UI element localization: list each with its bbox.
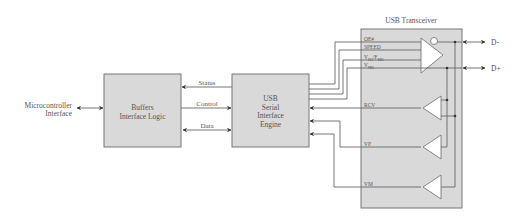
status-label: Status bbox=[198, 79, 215, 87]
data-label: Data bbox=[200, 122, 214, 130]
usb-serial-interface-engine-block: USB Serial Interface Engine bbox=[232, 74, 309, 147]
sie-label-line4: Engine bbox=[260, 120, 282, 129]
speed-label: SPEED bbox=[364, 44, 381, 50]
oe-label: OE# bbox=[364, 36, 374, 42]
vp-label: VP bbox=[364, 141, 371, 147]
rcv-label: RCV bbox=[364, 102, 375, 108]
junction-dot bbox=[446, 67, 449, 70]
buffers-interface-logic-block: Buffers Interface Logic bbox=[104, 74, 181, 147]
d-minus-label: D- bbox=[491, 38, 499, 47]
transceiver-title: USB Transceiver bbox=[385, 16, 437, 25]
microcontroller-interface-label: Microcontroller Interface bbox=[25, 101, 73, 118]
junction-dot bbox=[454, 41, 457, 44]
buffers-label-line1: Buffers bbox=[131, 103, 153, 112]
microcontroller-label-line2: Interface bbox=[45, 109, 72, 118]
d-plus-label: D+ bbox=[491, 64, 501, 73]
usb-block-diagram: Microcontroller Interface Buffers Interf… bbox=[0, 0, 526, 218]
control-label: Control bbox=[196, 100, 217, 108]
inversion-bubble-icon bbox=[431, 38, 438, 45]
junction-dot bbox=[446, 99, 449, 102]
junction-dot bbox=[454, 115, 457, 118]
vm-label: VM bbox=[364, 181, 373, 187]
buffers-label-line2: Interface Logic bbox=[119, 112, 166, 121]
